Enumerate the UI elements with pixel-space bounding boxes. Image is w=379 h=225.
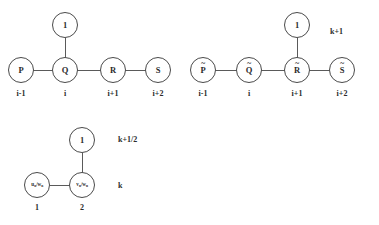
node-one: 1 [284,12,310,38]
node-u-w: un/wn [24,172,50,198]
index-p-tilde: i-1 [183,90,223,98]
node-v-w: vn/wn [69,172,95,198]
index-r: i+1 [93,90,133,98]
node-q-tilde: ~ Q [236,57,262,83]
index-s-tilde: i+2 [322,90,362,98]
index-p: i-1 [1,90,41,98]
node-s-tilde-label: ~ S [340,66,345,75]
node-s-tilde: ~ S [329,57,355,83]
time-level-k-plus-half: k+1/2 [118,136,137,144]
node-p-tilde: ~ P [190,57,216,83]
node-one: 1 [52,12,78,38]
time-level-k: k [118,182,122,190]
index-q-tilde: i [229,90,269,98]
node-q-tilde-label: ~ Q [246,66,253,75]
tilde-accent-icon: ~ [247,60,251,68]
tilde-accent-icon: ~ [201,60,205,68]
node-r-tilde: ~ R [284,57,310,83]
node-one: 1 [69,127,95,153]
node-s: S [145,57,171,83]
tilde-accent-icon: ~ [295,60,299,68]
node-p: P [8,57,34,83]
node-q-label: Q [62,66,69,75]
node-v-w-label: vn/wn [76,182,88,189]
index-node-two: 2 [62,204,102,212]
node-p-tilde-label: ~ P [200,66,205,75]
node-q: Q [52,57,78,83]
node-s-label: S [156,66,161,75]
node-r: R [100,57,126,83]
index-q: i [45,90,85,98]
node-u-w-label: un/wn [31,182,43,189]
tilde-accent-icon: ~ [340,60,344,68]
node-one-label: 1 [80,136,84,145]
figure-canvas: 1 P i-1 Q i R i+1 S i+2 1 [0,0,379,225]
index-node-one: 1 [17,204,57,212]
node-one-label: 1 [295,21,299,30]
node-r-tilde-label: ~ R [294,66,300,75]
node-r-label: R [110,66,116,75]
node-one-label: 1 [63,21,67,30]
time-level-k-plus-1: k+1 [330,28,343,36]
index-r-tilde: i+1 [277,90,317,98]
index-s: i+2 [138,90,178,98]
node-p-label: P [18,66,23,75]
